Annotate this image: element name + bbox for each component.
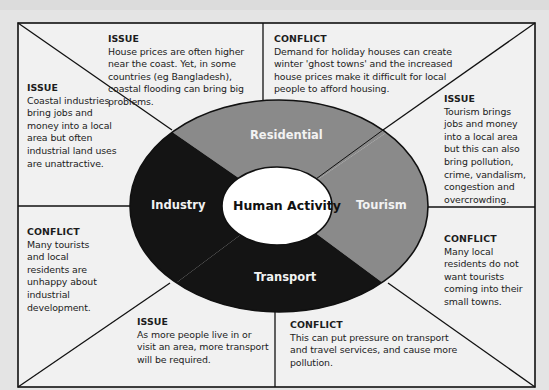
segment-label-transport: Transport — [254, 270, 316, 284]
panel-heading: ISSUE — [137, 316, 271, 329]
panel-text: This can put pressure on transport and t… — [290, 332, 460, 370]
panel-text: Coastal industries bring jobs and money … — [27, 95, 127, 171]
panel-industry-issue: ISSUE Coastal industries bring jobs and … — [27, 82, 127, 170]
panel-heading: ISSUE — [27, 82, 127, 95]
panel-text: Many tourists and local residents are un… — [27, 239, 109, 315]
segment-label-residential: Residential — [250, 128, 323, 142]
panel-heading: CONFLICT — [274, 33, 454, 46]
center-title: Human Activity — [233, 198, 341, 213]
panel-transport-conflict: CONFLICT This can put pressure on transp… — [290, 319, 460, 369]
panel-industry-conflict: CONFLICT Many tourists and local residen… — [27, 226, 109, 314]
panel-residential-conflict: CONFLICT Demand for holiday houses can c… — [274, 33, 454, 96]
panel-heading: CONFLICT — [444, 233, 534, 246]
panel-heading: ISSUE — [444, 93, 532, 106]
panel-text: Tourism brings jobs and money into a loc… — [444, 106, 532, 207]
panel-text: Demand for holiday houses can create win… — [274, 46, 454, 96]
panel-tourism-issue: ISSUE Tourism brings jobs and money into… — [444, 93, 532, 206]
panel-text: Many local residents do not want tourist… — [444, 246, 534, 309]
segment-label-tourism: Tourism — [356, 198, 407, 212]
panel-text: House prices are often higher near the c… — [108, 46, 264, 109]
panel-transport-issue: ISSUE As more people live in or visit an… — [137, 316, 271, 366]
segment-label-industry: Industry — [151, 198, 205, 212]
panel-text: As more people live in or visit an area,… — [137, 329, 271, 367]
panel-heading: CONFLICT — [27, 226, 109, 239]
panel-tourism-conflict: CONFLICT Many local residents do not wan… — [444, 233, 534, 309]
panel-residential-issue: ISSUE House prices are often higher near… — [108, 33, 264, 109]
panel-heading: CONFLICT — [290, 319, 460, 332]
panel-heading: ISSUE — [108, 33, 264, 46]
